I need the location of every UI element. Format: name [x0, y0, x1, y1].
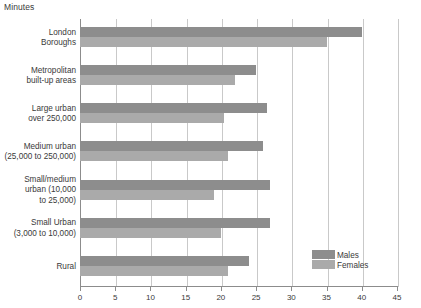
x-tick-label-30: 30: [287, 293, 296, 302]
x-axis-line: [80, 286, 398, 287]
category-label-line: built-up areas: [0, 76, 76, 87]
bar-chart: Minutes Males Females 051015202530354045…: [0, 0, 421, 308]
axis-unit-label: Minutes: [4, 2, 34, 12]
x-tick-label-45: 45: [393, 293, 402, 302]
x-tick-40: [362, 287, 363, 291]
bar-males: [80, 65, 256, 75]
bar-females: [80, 113, 224, 123]
chart-row: Small/mediumurban (10,000to 25,000): [0, 172, 421, 210]
bar-females: [80, 37, 327, 47]
category-label: Large urbanover 250,000: [0, 104, 76, 125]
bar-males: [80, 141, 263, 151]
category-label-line: Boroughs: [0, 38, 76, 49]
bar-males: [80, 103, 267, 113]
x-tick-15: [186, 287, 187, 291]
bar-females: [80, 151, 228, 161]
x-tick-label-5: 5: [113, 293, 117, 302]
x-tick-label-20: 20: [216, 293, 225, 302]
x-tick-20: [221, 287, 222, 291]
bar-males: [80, 27, 362, 37]
bar-males: [80, 180, 270, 190]
bar-males: [80, 256, 249, 266]
x-tick-0: [80, 287, 81, 291]
category-label-line: Medium urban: [0, 142, 76, 153]
category-label-line: Metropolitan: [0, 66, 76, 77]
category-label-line: Large urban: [0, 104, 76, 115]
x-tick-5: [115, 287, 116, 291]
category-label-line: London: [0, 28, 76, 39]
x-tick-label-15: 15: [181, 293, 190, 302]
bar-females: [80, 75, 235, 85]
chart-row: Small Urban(3,000 to 10,000): [0, 210, 421, 248]
chart-row: Rural: [0, 248, 421, 286]
category-label: Metropolitanbuilt-up areas: [0, 66, 76, 87]
category-label: Small/mediumurban (10,000to 25,000): [0, 175, 76, 207]
bar-females: [80, 190, 214, 200]
bar-males: [80, 218, 270, 228]
category-label-line: Small Urban: [0, 218, 76, 229]
category-label: Rural: [0, 262, 76, 273]
x-tick-10: [150, 287, 151, 291]
category-label-line: Small/medium: [0, 175, 76, 186]
x-tick-label-10: 10: [146, 293, 155, 302]
x-tick-label-25: 25: [252, 293, 261, 302]
chart-row: Large urbanover 250,000: [0, 95, 421, 133]
category-label-line: (25,000 to 250,000): [0, 152, 76, 163]
bar-females: [80, 266, 228, 276]
chart-row: Medium urban(25,000 to 250,000): [0, 133, 421, 171]
x-tick-25: [256, 287, 257, 291]
x-tick-label-0: 0: [78, 293, 82, 302]
category-label-line: over 250,000: [0, 114, 76, 125]
category-label-line: (3,000 to 10,000): [0, 229, 76, 240]
x-tick-45: [397, 287, 398, 291]
x-tick-35: [327, 287, 328, 291]
category-label: Medium urban(25,000 to 250,000): [0, 142, 76, 163]
chart-row: Metropolitanbuilt-up areas: [0, 57, 421, 95]
category-label: Small Urban(3,000 to 10,000): [0, 218, 76, 239]
chart-row: LondonBoroughs: [0, 19, 421, 57]
bar-females: [80, 228, 221, 238]
x-tick-label-35: 35: [322, 293, 331, 302]
x-tick-30: [291, 287, 292, 291]
category-label-line: to 25,000): [0, 196, 76, 207]
category-label-line: urban (10,000: [0, 185, 76, 196]
x-tick-label-40: 40: [357, 293, 366, 302]
category-label: LondonBoroughs: [0, 28, 76, 49]
category-label-line: Rural: [0, 262, 76, 273]
